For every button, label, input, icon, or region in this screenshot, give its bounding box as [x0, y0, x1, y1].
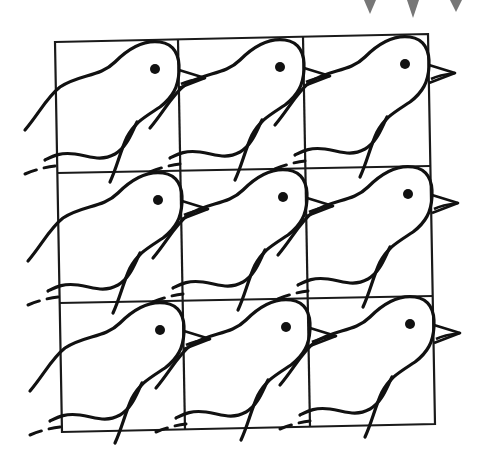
partial-star-shape	[364, 0, 462, 18]
tessellation-figure	[0, 0, 494, 461]
grid	[55, 34, 435, 432]
bird-r1c1	[25, 42, 205, 182]
